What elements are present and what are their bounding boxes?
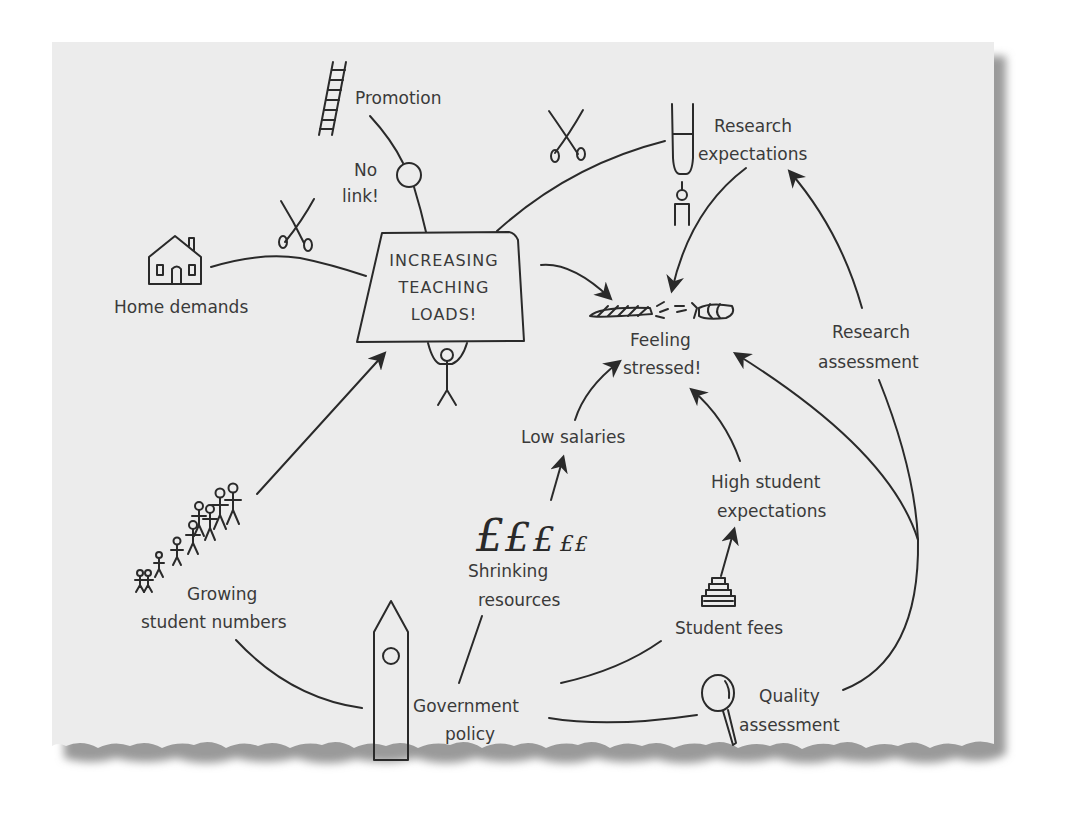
svg-text:£: £	[574, 532, 588, 556]
growing-student-numbers-label-1: Growing	[187, 584, 257, 604]
feeling-stressed-label-1: Feeling	[630, 330, 691, 350]
no-link-label-1: No	[354, 160, 377, 180]
feeling-stressed-label-2: stressed!	[623, 358, 701, 378]
research-expectations-label-2: expectations	[698, 144, 807, 164]
svg-text:£: £	[559, 531, 574, 556]
research-assessment-label-1: Research	[832, 322, 910, 342]
teaching-loads-label-2: TEACHING	[398, 278, 490, 297]
svg-text:£: £	[504, 514, 530, 560]
shrinking-resources-label-1: Shrinking	[468, 561, 548, 581]
mind-map-diagram: INCREASING TEACHING LOADS! Promotion No …	[0, 0, 1073, 823]
research-expectations-label-1: Research	[714, 116, 792, 136]
government-policy-label-1: Government	[413, 696, 519, 716]
low-salaries-label: Low salaries	[521, 427, 625, 447]
government-policy-label-2: policy	[445, 724, 495, 744]
teaching-loads-label-1: INCREASING	[389, 251, 498, 270]
paper-card	[52, 42, 994, 749]
student-fees-label: Student fees	[675, 618, 783, 638]
svg-text:£: £	[532, 519, 555, 559]
growing-student-numbers-label-2: student numbers	[141, 612, 287, 632]
high-student-expectations-label-2: expectations	[717, 501, 826, 521]
home-demands-label: Home demands	[114, 297, 248, 317]
teaching-loads-label-3: LOADS!	[411, 305, 478, 324]
svg-text:£: £	[475, 510, 504, 561]
high-student-expectations-label-1: High student	[711, 472, 821, 492]
quality-assessment-label-1: Quality	[759, 686, 820, 706]
research-assessment-label-2: assessment	[818, 352, 919, 372]
quality-assessment-label-2: assessment	[739, 715, 840, 735]
shrinking-resources-label-2: resources	[478, 590, 561, 610]
no-link-label-2: link!	[342, 186, 379, 206]
promotion-label: Promotion	[355, 88, 442, 108]
